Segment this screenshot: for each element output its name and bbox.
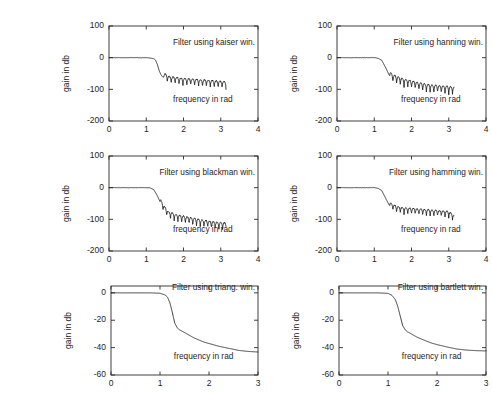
x-tick-label: 4 [256, 254, 261, 264]
y-tick-label: -100 [315, 214, 332, 224]
x-tick-label: 0 [335, 124, 340, 134]
panel-ylabel-bartlett: gain in db [291, 312, 301, 349]
y-tick-label: -200 [315, 115, 332, 125]
plot-panel-hanning: 012341000-100-200Filter using hanning wi… [281, 22, 430, 117]
x-tick-label: 3 [218, 254, 223, 264]
y-tick-label: 0 [99, 52, 104, 62]
plot-panel-blackman: 012341000-100-200Filter using blackman w… [53, 152, 202, 247]
panel-title-hanning: Filter using hanning win. [394, 37, 483, 47]
x-tick-label: 1 [386, 378, 391, 388]
y-tick-label: 0 [327, 52, 332, 62]
panel-ylabel-hanning: gain in db [289, 55, 299, 92]
panel-xlabel-bartlett: frequency in rad [402, 351, 462, 361]
panel-ylabel-hamming: gain in db [289, 185, 299, 222]
x-tick-label: 0 [107, 124, 112, 134]
data-curve-triang [111, 293, 258, 352]
panel-title-hamming: Filter using hamming win. [389, 167, 483, 177]
x-tick-label: 2 [181, 124, 186, 134]
x-tick-label: 0 [335, 254, 340, 264]
x-tick-label: 1 [158, 378, 163, 388]
x-tick-label: 1 [372, 254, 377, 264]
x-tick-label: 3 [484, 378, 489, 388]
y-tick-label: -40 [322, 342, 335, 352]
data-curve-bartlett [339, 293, 486, 351]
y-tick-label: -100 [87, 214, 104, 224]
x-tick-label: 2 [409, 124, 414, 134]
x-tick-label: 2 [435, 378, 440, 388]
panel-title-triang: Filter using triang. win. [172, 282, 255, 292]
plot-svg-triang: 01230-20-40-60Filter using triang. win.f… [55, 282, 264, 394]
x-tick-label: 4 [484, 124, 489, 134]
panel-ylabel-blackman: gain in db [61, 185, 71, 222]
x-tick-label: 4 [484, 254, 489, 264]
y-tick-label: 100 [90, 20, 104, 30]
y-tick-label: -100 [87, 84, 104, 94]
panel-xlabel-blackman: frequency in rad [173, 224, 233, 234]
y-tick-label: 0 [329, 287, 334, 297]
data-curve-kaiser [109, 58, 226, 90]
x-tick-label: 3 [446, 124, 451, 134]
x-tick-label: 2 [207, 378, 212, 388]
y-tick-label: -20 [322, 314, 335, 324]
axes-frame-bartlett [339, 286, 486, 375]
x-tick-label: 3 [256, 378, 261, 388]
y-tick-label: 100 [318, 20, 332, 30]
y-tick-label: -200 [87, 115, 104, 125]
y-tick-label: -20 [94, 314, 107, 324]
x-tick-label: 0 [109, 378, 114, 388]
panel-xlabel-hanning: frequency in rad [401, 94, 461, 104]
y-tick-label: 0 [101, 287, 106, 297]
x-tick-label: 1 [144, 124, 149, 134]
panel-xlabel-triang: frequency in rad [174, 351, 234, 361]
x-tick-label: 2 [181, 254, 186, 264]
panel-ylabel-kaiser: gain in db [61, 55, 71, 92]
plot-panel-triang: 01230-20-40-60Filter using triang. win.f… [55, 282, 202, 371]
panel-title-bartlett: Filter using bartlett win. [398, 282, 483, 292]
data-curve-hanning [337, 58, 454, 95]
panel-xlabel-hamming: frequency in rad [401, 224, 461, 234]
panel-title-blackman: Filter using blackman win. [160, 167, 255, 177]
plot-panel-bartlett: 01230-20-40-60Filter using bartlett win.… [283, 282, 430, 371]
y-tick-label: -200 [87, 245, 104, 255]
panel-title-kaiser: Filter using kaiser win. [173, 37, 255, 47]
y-tick-label: 0 [327, 182, 332, 192]
x-tick-label: 0 [107, 254, 112, 264]
y-tick-label: 100 [318, 150, 332, 160]
x-tick-label: 3 [446, 254, 451, 264]
plot-svg-blackman: 012341000-100-200Filter using blackman w… [53, 152, 264, 273]
axes-frame-triang [111, 286, 258, 375]
plot-panel-hamming: 012341000-100-200Filter using hamming wi… [281, 152, 430, 247]
x-tick-label: 4 [256, 124, 261, 134]
plot-svg-bartlett: 01230-20-40-60Filter using bartlett win.… [283, 282, 492, 394]
x-tick-label: 0 [337, 378, 342, 388]
panel-ylabel-triang: gain in db [63, 312, 73, 349]
y-tick-label: -100 [315, 84, 332, 94]
data-curve-hamming [337, 188, 454, 221]
plot-svg-hanning: 012341000-100-200Filter using hanning wi… [281, 22, 492, 143]
x-tick-label: 1 [144, 254, 149, 264]
y-tick-label: 100 [90, 150, 104, 160]
plot-svg-kaiser: 012341000-100-200Filter using kaiser win… [53, 22, 264, 143]
y-tick-label: -60 [94, 369, 107, 379]
y-tick-label: -200 [315, 245, 332, 255]
y-tick-label: -60 [322, 369, 335, 379]
y-tick-label: -40 [94, 342, 107, 352]
x-tick-label: 2 [409, 254, 414, 264]
panel-xlabel-kaiser: frequency in rad [173, 94, 233, 104]
plot-svg-hamming: 012341000-100-200Filter using hamming wi… [281, 152, 492, 273]
y-tick-label: 0 [99, 182, 104, 192]
x-tick-label: 1 [372, 124, 377, 134]
x-tick-label: 3 [218, 124, 223, 134]
plot-panel-kaiser: 012341000-100-200Filter using kaiser win… [53, 22, 202, 117]
